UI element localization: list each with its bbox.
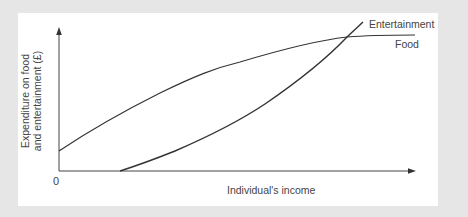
y-axis-label-line-2: and entertainment (£) (31, 51, 43, 151)
y-axis-label-line-1: Expenditure on food (19, 51, 31, 151)
food-curve (59, 35, 415, 151)
legend-food: Food (395, 38, 419, 50)
entertainment-curve (120, 22, 363, 171)
y-axis-arrow-icon (56, 27, 62, 35)
x-axis-label: Individual's income (227, 184, 315, 196)
legend-entertainment: Entertainment (369, 18, 434, 30)
x-axis-arrow-icon (408, 168, 416, 174)
y-axis-label: Expenditure on food and entertainment (£… (19, 51, 43, 151)
origin-label: 0 (53, 175, 59, 187)
